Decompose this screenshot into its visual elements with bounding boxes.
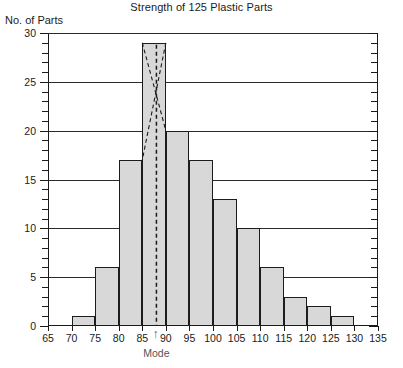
y-tick-15 (40, 180, 48, 181)
y-tick-10 (40, 228, 48, 229)
x-tick-100 (213, 326, 214, 331)
x-tick-130 (354, 326, 355, 331)
x-tick-70 (72, 326, 73, 331)
y-tick-0 (40, 326, 48, 327)
y-tick-label-0: 0 (8, 320, 36, 332)
x-tick-90 (166, 326, 167, 331)
x-tick-label-135: 135 (363, 332, 393, 344)
mode-annotation-label: Mode (126, 347, 186, 359)
x-tick-95 (189, 326, 190, 331)
x-tick-135 (378, 326, 379, 331)
chart-title: Strength of 125 Plastic Parts (0, 1, 403, 13)
x-tick-120 (307, 326, 308, 331)
x-tick-65 (48, 326, 49, 331)
y-tick-30 (40, 33, 48, 34)
x-tick-75 (95, 326, 96, 331)
x-tick-80 (119, 326, 120, 331)
y-tick-25 (40, 82, 48, 83)
y-tick-label-25: 25 (8, 76, 36, 88)
plot-area (48, 33, 378, 326)
x-tick-105 (237, 326, 238, 331)
x-tick-110 (260, 326, 261, 331)
x-tick-115 (284, 326, 285, 331)
y-axis-label: No. of Parts (5, 14, 63, 26)
y-tick-label-15: 15 (8, 174, 36, 186)
y-tick-5 (40, 277, 48, 278)
y-tick-20 (40, 131, 48, 132)
y-tick-label-20: 20 (8, 125, 36, 137)
histogram-figure: Strength of 125 Plastic Parts No. of Par… (0, 0, 403, 368)
y-tick-label-30: 30 (8, 27, 36, 39)
x-tick-125 (331, 326, 332, 331)
y-tick-label-5: 5 (8, 271, 36, 283)
mode-arrow-icon: ↑ (152, 328, 158, 340)
y-tick-label-10: 10 (8, 222, 36, 234)
x-tick-85 (142, 326, 143, 331)
figure-caption (0, 360, 403, 368)
mode-construction-lines (48, 33, 378, 326)
y-tick-right-0 (369, 326, 378, 327)
